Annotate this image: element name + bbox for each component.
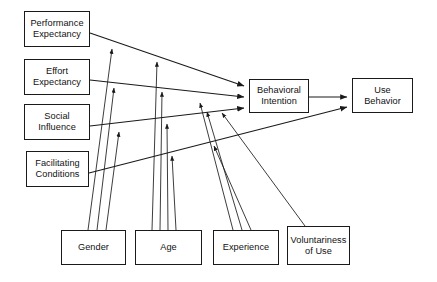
node-use-behavior[interactable]: Use Behavior (352, 78, 413, 113)
moderator-path-voluntariness-social (222, 113, 305, 226)
node-label-facilitating-conditions: Facilitating Conditions (33, 158, 82, 180)
moderator-path-experience-facilitating (214, 146, 251, 230)
node-label-behavioral-intention: Behavioral Intention (255, 85, 303, 107)
node-label-gender: Gender (76, 242, 111, 253)
node-label-performance-expectancy: Performance Expectancy (28, 18, 85, 40)
main-path-performance-expectancy (90, 33, 244, 86)
node-voluntariness-of-use[interactable]: Voluntariness of Use (287, 226, 350, 265)
node-experience[interactable]: Experience (213, 230, 279, 265)
moderator-path-age-facilitating (172, 156, 176, 230)
node-label-age: Age (158, 242, 179, 253)
node-social-influence[interactable]: Social Influence (24, 104, 90, 140)
node-label-social-influence: Social Influence (36, 111, 78, 133)
node-performance-expectancy[interactable]: Performance Expectancy (24, 11, 90, 47)
moderator-path-age-social (167, 124, 168, 230)
moderator-path-experience-social (207, 112, 242, 230)
node-label-effort-expectancy: Effort Expectancy (31, 66, 83, 88)
main-path-social-influence (90, 108, 244, 126)
node-effort-expectancy[interactable]: Effort Expectancy (24, 59, 90, 95)
node-gender[interactable]: Gender (61, 230, 126, 265)
main-path-facilitating-conditions (89, 107, 347, 173)
node-label-experience: Experience (221, 242, 271, 253)
moderator-path-age-effort (160, 92, 162, 230)
node-label-use-behavior: Use Behavior (362, 85, 403, 107)
moderator-path-gender-social (106, 132, 119, 230)
utaut-model-diagram: Performance Expectancy Effort Expectancy… (0, 0, 437, 282)
moderator-path-experience-effort (200, 103, 233, 230)
node-age[interactable]: Age (135, 230, 202, 265)
node-behavioral-intention[interactable]: Behavioral Intention (249, 79, 309, 113)
moderator-path-gender-effort (97, 88, 114, 230)
node-facilitating-conditions[interactable]: Facilitating Conditions (26, 151, 89, 187)
node-label-voluntariness-of-use: Voluntariness of Use (289, 235, 349, 257)
